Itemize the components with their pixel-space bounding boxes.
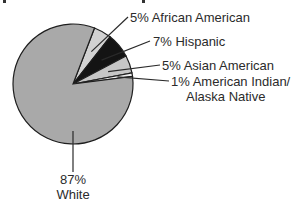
label-american-indian: 1% American Indian/ xyxy=(171,74,290,89)
label-hispanic: 7% Hispanic xyxy=(153,34,225,49)
label-asian-american: 5% Asian American xyxy=(162,58,274,73)
clipped-title-fragment xyxy=(3,0,6,3)
pie-slices xyxy=(13,24,133,144)
clipped-title-fragment xyxy=(142,0,145,3)
label-white: White xyxy=(56,187,89,202)
label-african-american: 5% African American xyxy=(130,10,250,25)
label-white-percent: 87% xyxy=(60,172,86,187)
label-alaska-native: Alaska Native xyxy=(186,89,265,104)
